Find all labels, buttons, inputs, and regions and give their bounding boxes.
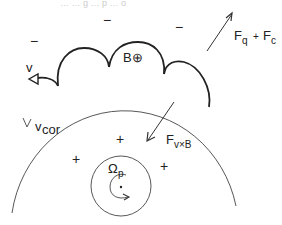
positive-charge: +	[116, 131, 124, 147]
positive-charge: +	[72, 151, 80, 167]
negative-charge: −	[175, 19, 183, 35]
v-arrow-shaft	[37, 78, 58, 86]
svg-text:+: +	[253, 31, 259, 42]
fq-fc-arrow	[207, 14, 232, 51]
negative-charge: −	[30, 33, 38, 49]
v-cor-label: v cor	[35, 119, 61, 137]
positive-charge: +	[160, 158, 168, 174]
v-label: v	[26, 60, 33, 75]
field-loop-3	[164, 61, 209, 107]
svg-text:cor: cor	[42, 122, 61, 137]
fq-fc-label: F q + F c	[234, 28, 276, 46]
center-dot	[120, 186, 122, 188]
v-arrowhead-open-icon	[29, 74, 38, 84]
planet-plasma-diagram: … … g … p … o B⊕ v v cor F q + F c F v×B…	[0, 0, 282, 225]
field-loop-1	[58, 48, 109, 86]
v-cor-arrowhead	[23, 118, 31, 127]
svg-text:q: q	[242, 35, 248, 46]
svg-text:F: F	[166, 132, 174, 147]
svg-text:Ω: Ω	[108, 161, 118, 176]
b-field-label: B⊕	[123, 50, 143, 65]
svg-text:p: p	[118, 168, 124, 179]
cut-off-caption: … … g … p … o	[60, 0, 126, 8]
svg-text:F: F	[234, 28, 242, 43]
negative-charge: −	[103, 12, 111, 28]
fq-fc-arrowhead	[226, 13, 232, 21]
svg-text:v×B: v×B	[174, 139, 192, 150]
svg-text:c: c	[271, 35, 276, 46]
svg-text:v: v	[35, 119, 42, 134]
svg-text:F: F	[263, 28, 271, 43]
rotation-arrowhead	[123, 194, 129, 200]
fvxb-label: F v×B	[166, 132, 192, 150]
